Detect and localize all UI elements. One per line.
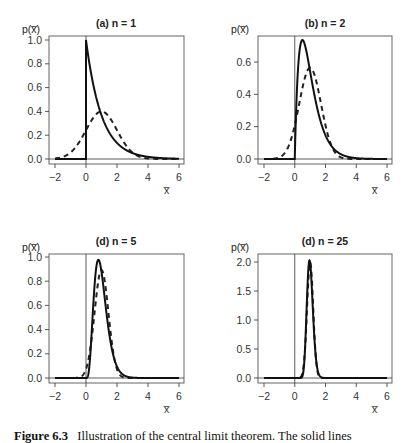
panel-title: (d) n = 25 [302, 235, 349, 247]
y-axis-label: p(x̅) [231, 241, 249, 253]
x-tick-label: 0 [83, 171, 89, 183]
x-tick-label: 4 [353, 390, 359, 402]
y-tick-label: 0.4 [27, 105, 42, 117]
y-tick-label: 0.4 [236, 88, 251, 100]
x-tick-label: 2 [114, 171, 120, 183]
x-tick-label: 6 [176, 171, 182, 183]
y-tick-label: 0.8 [27, 57, 42, 69]
y-tick-label: 0.0 [27, 372, 42, 384]
x-tick-label: 6 [384, 171, 390, 183]
x-axis-label: x̅ [163, 184, 171, 196]
y-tick-label: 0.6 [27, 81, 42, 93]
normal-approx-curve [264, 68, 387, 159]
normal-approx-curve [264, 262, 387, 378]
y-tick-label: 0.4 [27, 323, 42, 335]
y-tick-label: 0.0 [236, 372, 251, 384]
caption-text: Illustration of the central limit theore… [77, 429, 351, 443]
x-tick-label: 2 [323, 171, 329, 183]
y-axis-label: p(x̅) [231, 23, 249, 35]
x-tick-label: 2 [114, 390, 120, 402]
x-tick-label: 4 [145, 390, 151, 402]
x-tick-label: −2 [49, 171, 61, 183]
x-tick-label: 6 [384, 390, 390, 402]
caption-label: Figure 6.3 [14, 429, 68, 443]
x-tick-label: −2 [258, 171, 270, 183]
x-tick-label: −2 [49, 390, 61, 402]
panel-a: (a) n = 1p(x̅)0.00.20.40.60.81.0−20246x̅ [22, 17, 184, 196]
y-tick-label: 0.2 [236, 120, 251, 132]
plot-frame [258, 36, 392, 164]
panel-d: (d) n = 25p(x̅)0.00.51.01.52.0−20246x̅ [231, 235, 392, 415]
y-tick-label: 0.6 [27, 299, 42, 311]
y-tick-label: 0.2 [27, 347, 42, 359]
x-tick-label: 4 [353, 171, 359, 183]
normal-approx-curve [55, 270, 179, 378]
x-axis-label: x̅ [163, 403, 171, 415]
x-tick-label: 0 [83, 390, 89, 402]
panel-b: (b) n = 2p(x̅)0.00.20.40.6−20246x̅ [231, 17, 392, 196]
exact-distribution-curve [264, 260, 387, 378]
panel-title: (d) n = 5 [96, 235, 137, 247]
plot-frame [49, 36, 184, 164]
plot-frame [258, 254, 392, 383]
x-axis-label: x̅ [371, 184, 379, 196]
panel-title: (a) n = 1 [96, 17, 136, 29]
x-axis-label: x̅ [371, 403, 379, 415]
y-tick-label: 0.0 [27, 153, 42, 165]
y-tick-label: 0.8 [27, 275, 42, 287]
y-tick-label: 0.5 [236, 343, 251, 355]
y-tick-label: 1.0 [236, 314, 251, 326]
exact-distribution-curve [264, 40, 387, 159]
panel-title: (b) n = 2 [305, 17, 346, 29]
panel-c: (d) n = 5p(x̅)0.00.20.40.60.81.0−20246x̅ [22, 235, 184, 415]
y-tick-label: 0.2 [27, 129, 42, 141]
x-tick-label: 2 [323, 390, 329, 402]
x-tick-label: −2 [258, 390, 270, 402]
figure-caption: Figure 6.3 Illustration of the central l… [14, 429, 408, 443]
y-tick-label: 1.0 [27, 34, 42, 46]
y-tick-label: 0.6 [236, 56, 251, 68]
y-tick-label: 1.5 [236, 285, 251, 297]
x-tick-label: 4 [145, 171, 151, 183]
y-tick-label: 0.0 [236, 153, 251, 165]
normal-approx-curve [55, 112, 179, 159]
exact-distribution-curve [55, 260, 179, 378]
exact-distribution-curve [55, 40, 179, 159]
y-tick-label: 2.0 [236, 256, 251, 268]
x-tick-label: 6 [176, 390, 182, 402]
y-tick-label: 1.0 [27, 251, 42, 263]
x-tick-label: 0 [292, 390, 298, 402]
x-tick-label: 0 [292, 171, 298, 183]
